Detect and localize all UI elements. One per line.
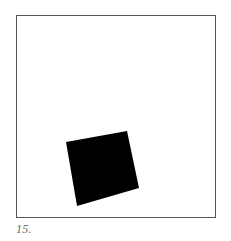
figure-canvas [0,0,231,241]
figure-number-label: 15. [16,223,32,236]
